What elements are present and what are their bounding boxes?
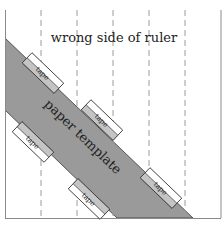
diagram-title: wrong side of ruler xyxy=(51,30,178,45)
ruler-tape-diagram: wrong side of ruler paper template tape … xyxy=(0,0,223,230)
